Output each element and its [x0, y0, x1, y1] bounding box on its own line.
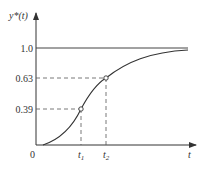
- x-tick-t2: t2: [103, 149, 110, 162]
- y-tick-1: 1.0: [21, 43, 34, 54]
- step-response-diagram: y*(t) 1.0 0.63 0.39 0 t1 t2 t: [0, 0, 201, 171]
- guide-063: [36, 78, 106, 145]
- x-tick-t1: t1: [78, 149, 84, 162]
- y-axis-label: y*(t): [8, 10, 29, 22]
- y-tick-063: 0.63: [16, 73, 34, 84]
- point-t2: [104, 76, 108, 80]
- origin-label: 0: [30, 149, 35, 160]
- guide-039: [36, 109, 81, 145]
- y-tick-039: 0.39: [16, 104, 34, 115]
- point-t1: [79, 107, 83, 111]
- response-curve: [43, 50, 188, 145]
- x-axis-label: t: [188, 149, 191, 160]
